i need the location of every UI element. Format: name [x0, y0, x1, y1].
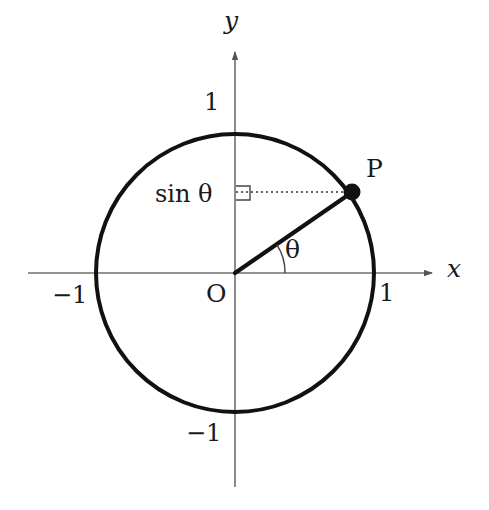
x-axis-label: x: [447, 256, 461, 281]
theta-angle-arc: [277, 245, 285, 273]
sine-theta-label: sin θ: [155, 182, 213, 206]
unit-circle-canvas: [0, 0, 489, 510]
tick-label-y-negative-one: −1: [186, 421, 221, 445]
unit-circle-figure: y x 1 1 −1 −1 O P θ sin θ: [0, 0, 489, 510]
point-p-marker: [344, 184, 361, 201]
point-p-label: P: [366, 156, 383, 181]
theta-angle-label: θ: [285, 237, 300, 262]
y-axis-label: y: [224, 8, 238, 33]
tick-label-y-positive-one: 1: [204, 90, 219, 114]
tick-label-x-negative-one: −1: [52, 283, 87, 307]
origin-label: O: [206, 281, 227, 306]
right-angle-marker: [236, 186, 250, 200]
tick-label-x-positive-one: 1: [379, 281, 394, 305]
